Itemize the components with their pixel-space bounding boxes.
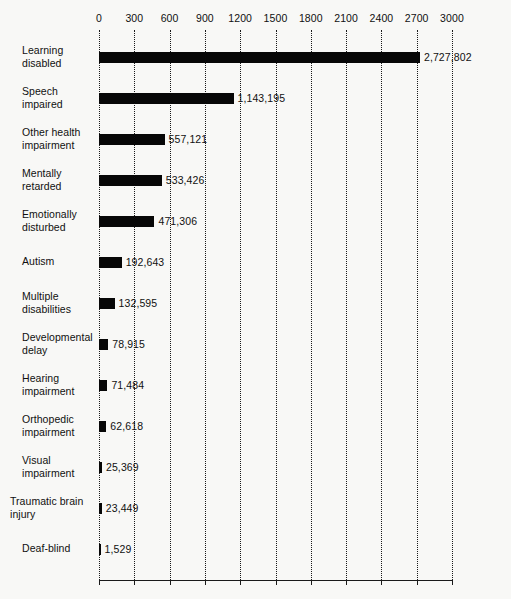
x-tick-label: 1200	[228, 13, 252, 24]
bar	[99, 339, 108, 350]
bar	[99, 52, 420, 63]
category-label-developmental-delay: Developmentaldelay	[22, 331, 94, 356]
bar-value-label: 1,529	[105, 544, 132, 555]
axis-tick-0	[99, 580, 100, 585]
category-label-line: Traumatic brain	[10, 495, 96, 507]
category-label-line: Emotionally	[22, 208, 94, 220]
category-label-line: Autism	[22, 255, 94, 267]
x-tick-label: 0	[96, 13, 102, 24]
axis-tick-2100	[346, 580, 347, 585]
category-label-line: Deaf-blind	[22, 542, 94, 554]
category-label-speech-impaired: Speechimpaired	[22, 85, 94, 110]
category-label-line: Developmental	[22, 331, 94, 343]
category-label-line: Learning	[22, 44, 94, 56]
category-label-visual-impairment: Visualimpairment	[22, 454, 94, 479]
category-label-other-health-impairment: Other healthimpairment	[22, 126, 94, 151]
category-label-line: impairment	[22, 467, 94, 479]
category-label-emotionally-disturbed: Emotionallydisturbed	[22, 208, 94, 233]
gridline-1500	[276, 30, 277, 580]
category-label-mentally-retarded: Mentallyretarded	[22, 167, 94, 192]
bar	[99, 380, 107, 391]
category-label-line: Orthopedic	[22, 413, 94, 425]
gridline-2400	[381, 30, 382, 580]
gridline-1200	[240, 30, 241, 580]
gridline-900	[205, 30, 206, 580]
category-label-line: impaired	[22, 98, 94, 110]
bar-value-label: 23,449	[106, 503, 139, 514]
category-label-line: Other health	[22, 126, 94, 138]
bar	[99, 93, 234, 104]
x-tick-label: 600	[161, 13, 179, 24]
category-label-orthopedic-impairment: Orthopedicimpairment	[22, 413, 94, 438]
bar	[99, 298, 115, 309]
axis-tick-2400	[381, 580, 382, 585]
axis-tick-1200	[240, 580, 241, 585]
category-label-line: impairment	[22, 139, 94, 151]
axis-tick-1800	[311, 580, 312, 585]
bar-value-label: 192,643	[126, 257, 165, 268]
x-tick-label: 2700	[405, 13, 429, 24]
gridline-2700	[417, 30, 418, 580]
bar-value-label: 78,915	[112, 339, 145, 350]
chart-page: 03006009001200150018002100240027003000 2…	[0, 0, 511, 599]
category-label-line: impairment	[22, 385, 94, 397]
bar-value-label: 25,369	[106, 462, 139, 473]
x-tick-label: 1500	[264, 13, 288, 24]
category-label-line: injury	[10, 508, 96, 520]
axis-tick-3000	[452, 580, 453, 585]
category-label-line: Visual	[22, 454, 94, 466]
bar-value-label: 2,727,802	[424, 52, 472, 63]
axis-tick-1500	[276, 580, 277, 585]
bar-value-label: 132,595	[119, 298, 158, 309]
bar	[99, 216, 154, 227]
bar	[99, 257, 122, 268]
gridline-1800	[311, 30, 312, 580]
gridline-3000	[452, 30, 453, 580]
category-label-line: disturbed	[22, 221, 94, 233]
axis-tick-900	[205, 580, 206, 585]
category-label-line: impairment	[22, 426, 94, 438]
bar	[99, 503, 102, 514]
x-tick-label: 900	[196, 13, 214, 24]
category-label-line: disabilities	[22, 303, 94, 315]
x-tick-label: 1800	[299, 13, 323, 24]
bar-value-label: 471,306	[158, 216, 197, 227]
x-tick-label: 300	[125, 13, 143, 24]
category-label-learning-disabled: Learningdisabled	[22, 44, 94, 69]
category-label-line: Multiple	[22, 290, 94, 302]
gridline-2100	[346, 30, 347, 580]
axis-tick-600	[170, 580, 171, 585]
bar	[99, 421, 106, 432]
category-label-hearing-impairment: Hearingimpairment	[22, 372, 94, 397]
bar-value-label: 62,618	[110, 421, 143, 432]
category-label-line: retarded	[22, 180, 94, 192]
category-label-line: delay	[22, 344, 94, 356]
bar-value-label: 71,484	[111, 380, 144, 391]
x-tick-label: 2400	[370, 13, 394, 24]
axis-tick-2700	[417, 580, 418, 585]
gridline-600	[170, 30, 171, 580]
category-label-line: Speech	[22, 85, 94, 97]
category-label-line: Mentally	[22, 167, 94, 179]
axis-tick-300	[134, 580, 135, 585]
bar	[99, 134, 165, 145]
x-tick-label: 2100	[334, 13, 358, 24]
category-label-line: disabled	[22, 57, 94, 69]
bar-value-label: 557,121	[169, 134, 208, 145]
x-tick-label: 3000	[440, 13, 464, 24]
bar	[99, 544, 101, 555]
bar-value-label: 1,143,195	[238, 93, 286, 104]
category-label-line: Hearing	[22, 372, 94, 384]
bar	[99, 175, 162, 186]
plot-area: 03006009001200150018002100240027003000 2…	[99, 30, 452, 580]
category-label-traumatic-brain-injury: Traumatic braininjury	[10, 495, 96, 520]
bar-value-label: 533,426	[166, 175, 205, 186]
category-label-multiple-disabilities: Multipledisabilities	[22, 290, 94, 315]
category-label-autism: Autism	[22, 255, 94, 267]
category-label-deaf-blind: Deaf-blind	[22, 542, 94, 554]
bar	[99, 462, 102, 473]
